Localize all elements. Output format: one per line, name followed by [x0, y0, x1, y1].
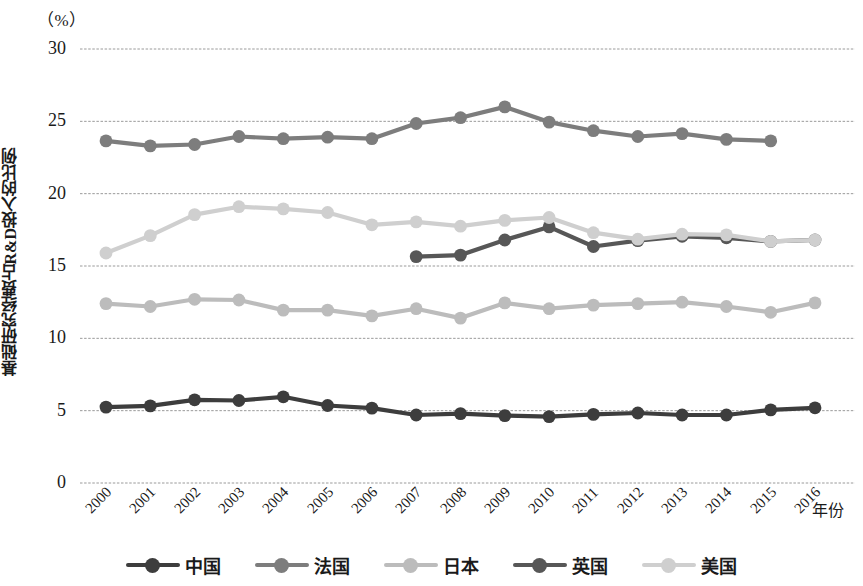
data-point: [631, 233, 644, 246]
data-point: [144, 400, 157, 413]
series-line: [416, 227, 815, 257]
data-point: [676, 296, 689, 309]
x-axis-tick-label: 2010: [525, 484, 558, 517]
x-axis-tick-label: 2012: [614, 484, 647, 517]
data-point: [676, 127, 689, 140]
chart-legend: 中国法国日本英国美国: [0, 552, 863, 578]
data-point: [366, 310, 379, 323]
legend-label: 美国: [701, 552, 737, 578]
data-point: [498, 214, 511, 227]
series-line: [106, 107, 771, 146]
plot-area: [80, 35, 863, 485]
legend-item-4[interactable]: 美国: [642, 552, 737, 578]
data-point: [366, 218, 379, 231]
legend-item-2[interactable]: 日本: [384, 552, 479, 578]
y-axis-tick-label: 10: [28, 328, 66, 346]
data-point: [277, 132, 290, 145]
x-axis-tick-label: 2009: [481, 484, 514, 517]
data-point: [809, 234, 822, 247]
data-point: [720, 409, 733, 422]
legend-marker-icon: [126, 557, 180, 573]
x-axis-tick-label: 2006: [348, 484, 381, 517]
data-point: [410, 117, 423, 130]
x-axis-tick-label: 2002: [171, 484, 204, 517]
y-axis-tick-label: 0: [28, 473, 66, 491]
legend-marker-icon: [642, 557, 696, 573]
data-point: [764, 135, 777, 148]
data-point: [100, 135, 113, 148]
y-axis-title: 基础研究经费占R&D投入的比例: [2, 148, 30, 376]
x-axis-title: 年份: [812, 497, 844, 521]
data-point: [188, 138, 201, 151]
data-point: [454, 220, 467, 233]
data-point: [587, 299, 600, 312]
data-point: [543, 410, 556, 423]
data-point: [188, 208, 201, 221]
data-point: [543, 302, 556, 315]
data-point: [676, 228, 689, 241]
data-point: [764, 235, 777, 248]
data-point: [277, 203, 290, 216]
x-axis-tick-label: 2001: [126, 484, 159, 517]
legend-item-1[interactable]: 法国: [255, 552, 350, 578]
legend-marker-icon: [513, 557, 567, 573]
data-point: [631, 407, 644, 420]
data-point: [233, 200, 246, 213]
data-point: [188, 293, 201, 306]
x-axis-tick-label: 2004: [259, 484, 292, 517]
legend-item-3[interactable]: 英国: [513, 552, 608, 578]
data-point: [277, 304, 290, 317]
data-point: [454, 249, 467, 262]
data-point: [144, 140, 157, 153]
legend-label: 日本: [443, 552, 479, 578]
data-point: [498, 297, 511, 310]
data-point: [809, 297, 822, 310]
data-point: [233, 130, 246, 143]
data-point: [454, 312, 467, 325]
data-point: [366, 402, 379, 415]
data-point: [720, 133, 733, 146]
legend-marker-icon: [255, 557, 309, 573]
data-point: [410, 216, 423, 229]
y-axis-tick-label: 20: [28, 184, 66, 202]
data-point: [277, 390, 290, 403]
y-axis-tick-label: 15: [28, 256, 66, 274]
data-point: [543, 116, 556, 129]
data-point: [321, 131, 334, 144]
x-axis-tick-label: 2008: [437, 484, 470, 517]
data-point: [809, 401, 822, 414]
data-point: [454, 111, 467, 124]
data-point: [587, 226, 600, 239]
legend-marker-icon: [384, 557, 438, 573]
data-point: [631, 130, 644, 143]
series-2: [100, 293, 822, 325]
x-axis-tick-label: 2013: [658, 484, 691, 517]
data-point: [587, 408, 600, 421]
series-0: [100, 390, 822, 423]
x-axis-tick-label: 2015: [747, 484, 780, 517]
data-point: [410, 250, 423, 263]
data-point: [720, 229, 733, 242]
x-axis-tick-label: 2007: [392, 484, 425, 517]
data-point: [366, 132, 379, 145]
x-axis-tick-label: 2005: [304, 484, 337, 517]
y-axis-tick-label: 30: [28, 39, 66, 57]
data-point: [233, 394, 246, 407]
y-axis-unit-label: （%）: [37, 6, 87, 31]
legend-label: 法国: [314, 552, 350, 578]
x-axis-tick-label: 2014: [702, 484, 735, 517]
x-axis-tick-label: 2003: [215, 484, 248, 517]
data-point: [764, 306, 777, 319]
x-axis-tick-label: 2011: [569, 484, 602, 517]
y-axis-tick-label: 5: [28, 401, 66, 419]
data-point: [188, 393, 201, 406]
data-point: [410, 302, 423, 315]
data-point: [100, 401, 113, 414]
y-axis-tick-label: 25: [28, 111, 66, 129]
data-point: [454, 407, 467, 420]
data-point: [720, 300, 733, 313]
legend-item-0[interactable]: 中国: [126, 552, 221, 578]
data-point: [676, 409, 689, 422]
legend-label: 英国: [572, 552, 608, 578]
data-point: [144, 300, 157, 313]
